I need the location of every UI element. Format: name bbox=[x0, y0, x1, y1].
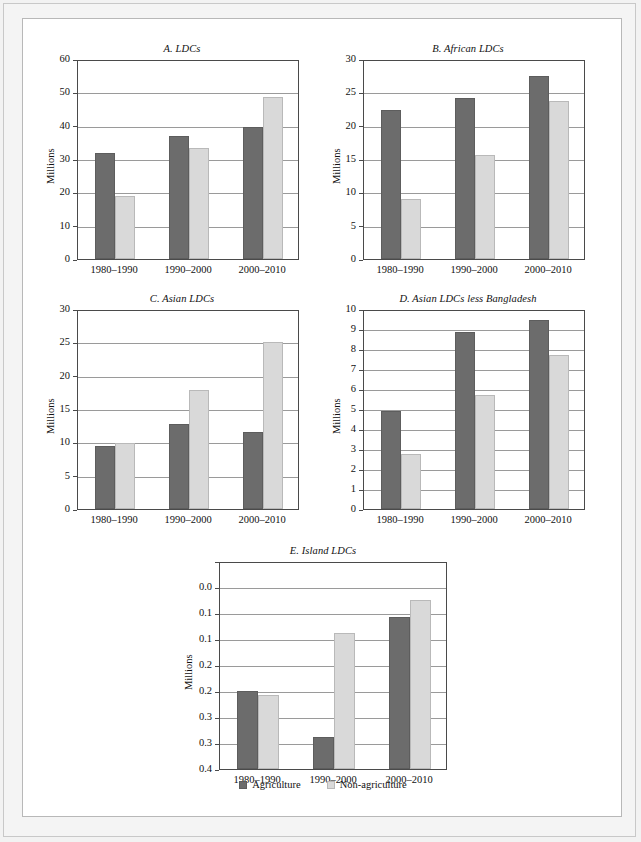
y-tick-mark bbox=[73, 260, 77, 261]
bar-nonagriculture bbox=[258, 695, 279, 769]
y-tick-label: 8 bbox=[323, 343, 356, 354]
y-tick-mark bbox=[73, 443, 77, 444]
y-tick-label: 60 bbox=[37, 53, 70, 64]
x-tick-label: 1990–2000 bbox=[437, 264, 511, 275]
bar-agriculture bbox=[169, 424, 189, 509]
y-tick-mark bbox=[73, 343, 77, 344]
y-tick-mark bbox=[73, 60, 77, 61]
legend-swatch-agriculture-icon bbox=[239, 781, 247, 789]
panel-c-title: C. Asian LDCs bbox=[37, 291, 327, 306]
y-tick-mark bbox=[215, 562, 219, 563]
y-tick-label: 10 bbox=[323, 186, 356, 197]
bar-nonagriculture bbox=[189, 148, 209, 259]
y-tick-mark bbox=[359, 370, 363, 371]
y-tick-mark bbox=[215, 588, 219, 589]
x-tick-label: 2000–2010 bbox=[511, 264, 585, 275]
figure-frame: A. LDCs Millions01020304050601980–199019… bbox=[22, 18, 622, 817]
panel-d-axes bbox=[363, 310, 585, 510]
y-tick-mark bbox=[215, 718, 219, 719]
bar-agriculture bbox=[95, 446, 115, 509]
y-tick-mark bbox=[359, 160, 363, 161]
y-tick-mark bbox=[73, 310, 77, 311]
y-tick-mark bbox=[359, 490, 363, 491]
y-tick-label: 0.1 bbox=[175, 633, 212, 644]
y-tick-mark bbox=[359, 350, 363, 351]
panel-b-title: B. African LDCs bbox=[323, 41, 613, 56]
x-tick-label: 1990–2000 bbox=[151, 264, 225, 275]
x-tick-label: 2000–2010 bbox=[225, 264, 299, 275]
y-tick-mark bbox=[359, 390, 363, 391]
panel-d-asian-ldcs-less-bangladesh: D. Asian LDCs less Bangladesh Millions01… bbox=[323, 291, 613, 543]
panel-e-plot-area: Millions0.40.30.30.20.20.10.10.01980–199… bbox=[175, 558, 471, 792]
bar-nonagriculture bbox=[263, 97, 283, 259]
y-tick-mark bbox=[359, 410, 363, 411]
panel-b-plot-area: Millions0510152025301980–19901990–200020… bbox=[323, 56, 613, 282]
bar-nonagriculture bbox=[401, 454, 421, 509]
legend-item-nonagriculture: Non-agriculture bbox=[327, 779, 407, 790]
y-tick-label: 0.2 bbox=[175, 685, 212, 696]
y-tick-mark bbox=[359, 126, 363, 127]
panel-a-axes bbox=[77, 60, 299, 260]
y-tick-mark bbox=[73, 376, 77, 377]
x-tick-label: 1980–1990 bbox=[363, 264, 437, 275]
y-tick-mark bbox=[73, 93, 77, 94]
panel-e-axes bbox=[219, 562, 447, 770]
y-tick-label: 10 bbox=[37, 436, 70, 447]
y-tick-label: 0 bbox=[37, 503, 70, 514]
bar-agriculture bbox=[389, 617, 410, 769]
x-tick-label: 1980–1990 bbox=[77, 264, 151, 275]
y-tick-label: 9 bbox=[323, 323, 356, 334]
bar-agriculture bbox=[313, 737, 334, 769]
y-tick-label: 6 bbox=[323, 383, 356, 394]
x-tick-label: 1980–1990 bbox=[77, 514, 151, 525]
y-tick-mark bbox=[73, 160, 77, 161]
y-tick-label: 15 bbox=[323, 153, 356, 164]
bar-agriculture bbox=[455, 332, 475, 509]
panel-c-plot-area: Millions0510152025301980–19901990–200020… bbox=[37, 306, 327, 532]
y-tick-mark bbox=[73, 193, 77, 194]
y-tick-label: 2 bbox=[323, 463, 356, 474]
y-tick-mark bbox=[359, 330, 363, 331]
legend-label-nonagriculture: Non-agriculture bbox=[340, 779, 407, 790]
y-tick-mark bbox=[359, 193, 363, 194]
panel-e-island-ldcs: E. Island LDCs Millions0.40.30.30.20.20.… bbox=[175, 543, 471, 805]
legend-item-agriculture: Agriculture bbox=[239, 779, 300, 790]
y-tick-mark bbox=[215, 692, 219, 693]
y-tick-label: 0 bbox=[323, 503, 356, 514]
y-tick-label: 15 bbox=[37, 403, 70, 414]
y-tick-mark bbox=[359, 226, 363, 227]
y-tick-mark bbox=[73, 476, 77, 477]
bar-nonagriculture bbox=[263, 342, 283, 509]
bar-nonagriculture bbox=[401, 199, 421, 259]
y-tick-mark bbox=[359, 450, 363, 451]
y-tick-mark bbox=[215, 614, 219, 615]
panel-c-asian-ldcs: C. Asian LDCs Millions0510152025301980–1… bbox=[37, 291, 327, 543]
y-tick-label: 4 bbox=[323, 423, 356, 434]
panel-c-axes bbox=[77, 310, 299, 510]
y-tick-mark bbox=[359, 310, 363, 311]
panel-e-title: E. Island LDCs bbox=[175, 543, 471, 558]
y-tick-label: 20 bbox=[37, 370, 70, 381]
y-tick-label: 40 bbox=[37, 120, 70, 131]
y-tick-mark bbox=[359, 93, 363, 94]
bar-agriculture bbox=[237, 691, 258, 769]
page-sheet: A. LDCs Millions01020304050601980–199019… bbox=[3, 3, 636, 837]
bar-nonagriculture bbox=[549, 101, 569, 259]
panel-a-title: A. LDCs bbox=[37, 41, 327, 56]
bar-nonagriculture bbox=[475, 155, 495, 259]
x-tick-label: 1990–2000 bbox=[151, 514, 225, 525]
figure-legend: Agriculture Non-agriculture bbox=[23, 779, 623, 790]
y-tick-label: 5 bbox=[323, 220, 356, 231]
bar-nonagriculture bbox=[334, 633, 355, 769]
bar-agriculture bbox=[169, 136, 189, 259]
y-tick-mark bbox=[73, 510, 77, 511]
panel-grid: A. LDCs Millions01020304050601980–199019… bbox=[23, 19, 623, 818]
y-tick-label: 10 bbox=[323, 303, 356, 314]
y-tick-label: 25 bbox=[323, 86, 356, 97]
gridline bbox=[78, 93, 298, 94]
gridline bbox=[364, 93, 584, 94]
y-tick-mark bbox=[359, 260, 363, 261]
y-tick-label: 50 bbox=[37, 86, 70, 97]
x-tick-label: 2000–2010 bbox=[225, 514, 299, 525]
y-tick-label: 5 bbox=[37, 470, 70, 481]
